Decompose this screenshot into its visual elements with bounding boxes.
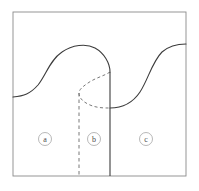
region-label-c-text: c bbox=[144, 135, 148, 144]
region-label-b-text: b bbox=[92, 135, 96, 144]
figure-root: a b c bbox=[0, 0, 199, 191]
outer-frame bbox=[13, 12, 186, 176]
region-label-a-text: a bbox=[43, 135, 47, 144]
fold-diagram-svg: a b c bbox=[0, 0, 199, 191]
